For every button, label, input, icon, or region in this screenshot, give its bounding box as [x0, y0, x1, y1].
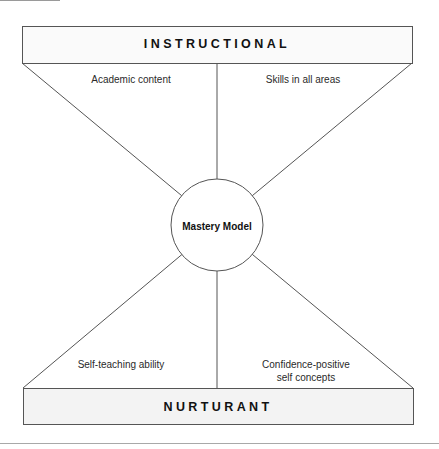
mastery-model-label: Mastery Model: [182, 221, 251, 232]
label-self-concepts: self concepts: [277, 371, 335, 384]
label-self-teaching-ability: Self-teaching ability: [78, 358, 165, 371]
instructional-title: INSTRUCTIONAL: [144, 37, 290, 51]
label-skills-in-all-areas: Skills in all areas: [266, 73, 340, 86]
label-confidence-positive: Confidence-positive: [262, 358, 350, 371]
label-academic-content: Academic content: [91, 73, 171, 86]
nurturant-title: NURTURANT: [163, 400, 272, 414]
